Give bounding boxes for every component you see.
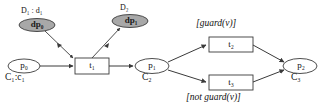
edge-t1-dp1 xyxy=(92,28,120,58)
edge-t2-p2 xyxy=(253,45,284,62)
diagram-canvas: D₁ : d₁ dp₀ D₂ dp₁ p₀ C₁:c₁ t₁ p₁ C₂ [gu… xyxy=(0,0,323,111)
place-p2-capacity: C₃ xyxy=(291,73,301,83)
edge-p1-t2 xyxy=(168,45,206,62)
transition-t3-label: t₃ xyxy=(222,78,240,87)
data-place-dp0-label: dp₀ xyxy=(26,20,48,29)
data-annotation-d2: D₂ xyxy=(120,4,129,12)
guard-true-label: [guard(v)] xyxy=(196,19,236,29)
place-p0-capacity: C₁:c₁ xyxy=(5,73,25,83)
data-place-dp1-label: dp₁ xyxy=(120,16,142,25)
petri-net-graphics xyxy=(0,0,323,111)
place-p0-label: p₀ xyxy=(15,61,33,70)
transition-t2-label: t₂ xyxy=(222,40,240,49)
place-p2-label: p₂ xyxy=(292,61,310,70)
place-p1-label: p₁ xyxy=(143,61,161,70)
data-annotation-d1: D₁ : d₁ xyxy=(21,7,43,15)
transition-t1-label: t₁ xyxy=(83,61,101,70)
place-p1-capacity: C₂ xyxy=(142,73,152,83)
edge-t3-p2 xyxy=(253,70,284,82)
edge-p1-t3 xyxy=(168,70,206,82)
guard-false-label: [not guard(v)] xyxy=(186,93,241,103)
